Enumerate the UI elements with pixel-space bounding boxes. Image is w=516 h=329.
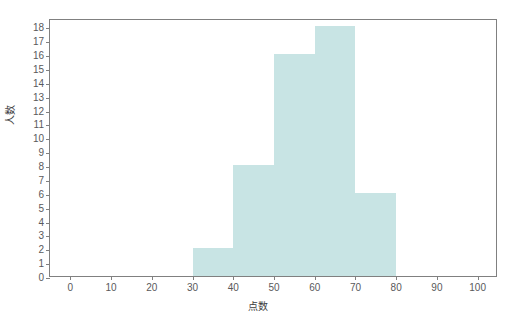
y-axis-tick-label: 1 bbox=[38, 259, 44, 269]
y-axis-tick bbox=[46, 98, 50, 99]
y-axis-tick-label: 5 bbox=[38, 204, 44, 214]
y-axis-tick bbox=[46, 278, 50, 279]
y-axis-tick bbox=[46, 125, 50, 126]
histogram-bar bbox=[233, 165, 274, 276]
y-axis-tick bbox=[46, 42, 50, 43]
x-axis-tick bbox=[437, 276, 438, 280]
y-axis-tick-label: 7 bbox=[38, 176, 44, 186]
x-axis-tick-label: 40 bbox=[228, 283, 239, 293]
x-axis-tick-label: 0 bbox=[68, 283, 74, 293]
y-axis-tick-label: 8 bbox=[38, 162, 44, 172]
y-axis-tick-label: 0 bbox=[38, 273, 44, 283]
x-axis-tick-label: 70 bbox=[350, 283, 361, 293]
x-axis-tick-label: 60 bbox=[309, 283, 320, 293]
histogram-bar bbox=[274, 54, 315, 276]
x-axis-tick bbox=[396, 276, 397, 280]
x-axis-tick bbox=[111, 276, 112, 280]
y-axis-tick bbox=[46, 84, 50, 85]
y-axis-tick-label: 4 bbox=[38, 218, 44, 228]
x-axis-tick bbox=[355, 276, 356, 280]
y-axis-tick bbox=[46, 264, 50, 265]
y-axis-tick bbox=[46, 28, 50, 29]
y-axis-tick-label: 3 bbox=[38, 231, 44, 241]
x-axis-tick-label: 80 bbox=[391, 283, 402, 293]
y-axis-tick bbox=[46, 112, 50, 113]
x-axis-tick-label: 100 bbox=[469, 283, 486, 293]
y-axis-tick bbox=[46, 209, 50, 210]
histogram-bar bbox=[193, 248, 234, 276]
y-axis-title: 人数 bbox=[6, 105, 16, 125]
y-axis-tick-label: 16 bbox=[33, 51, 44, 61]
y-axis-tick-label: 15 bbox=[33, 65, 44, 75]
y-axis-tick bbox=[46, 153, 50, 154]
x-axis-tick-label: 10 bbox=[106, 283, 117, 293]
x-axis-tick bbox=[233, 276, 234, 280]
x-axis-tick bbox=[193, 276, 194, 280]
y-axis-tick-label: 12 bbox=[33, 107, 44, 117]
y-axis-tick bbox=[46, 167, 50, 168]
y-axis-tick bbox=[46, 139, 50, 140]
x-axis-tick-label: 20 bbox=[146, 283, 157, 293]
y-axis-tick bbox=[46, 56, 50, 57]
x-axis-tick bbox=[152, 276, 153, 280]
x-axis-tick bbox=[70, 276, 71, 280]
y-axis-tick bbox=[46, 195, 50, 196]
y-axis-tick-label: 2 bbox=[38, 245, 44, 255]
x-axis-tick-label: 50 bbox=[268, 283, 279, 293]
y-axis-tick-label: 10 bbox=[33, 134, 44, 144]
y-axis-tick-label: 13 bbox=[33, 93, 44, 103]
histogram-bar bbox=[315, 26, 356, 276]
x-axis-title: 点数 bbox=[0, 302, 516, 312]
y-axis-tick-label: 11 bbox=[34, 120, 44, 130]
x-axis-tick bbox=[315, 276, 316, 280]
y-axis-tick bbox=[46, 250, 50, 251]
y-axis-tick-label: 9 bbox=[38, 148, 44, 158]
y-axis-tick-label: 6 bbox=[38, 190, 44, 200]
x-axis-tick bbox=[478, 276, 479, 280]
y-axis-tick bbox=[46, 223, 50, 224]
x-axis-tick-label: 30 bbox=[187, 283, 198, 293]
x-axis-tick-label: 90 bbox=[431, 283, 442, 293]
histogram-figure: 0123456789101112131415161718 01020304050… bbox=[0, 0, 516, 329]
y-axis-tick bbox=[46, 236, 50, 237]
y-axis-tick-label: 18 bbox=[33, 23, 44, 33]
x-axis-tick bbox=[274, 276, 275, 280]
y-axis-tick-label: 14 bbox=[33, 79, 44, 89]
y-axis-tick bbox=[46, 181, 50, 182]
plot-area: 0123456789101112131415161718 01020304050… bbox=[49, 19, 497, 277]
x-axis-title-text: 点数 bbox=[248, 302, 268, 312]
y-axis-tick-label: 17 bbox=[33, 37, 44, 47]
y-axis-tick bbox=[46, 70, 50, 71]
histogram-bar bbox=[355, 193, 396, 276]
bars-layer bbox=[50, 20, 496, 276]
